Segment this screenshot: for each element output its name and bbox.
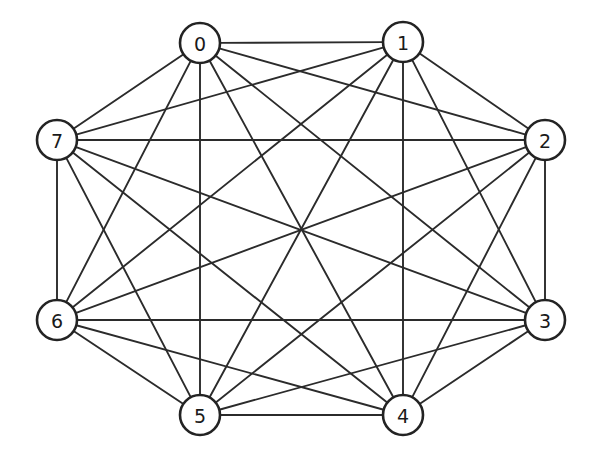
graph-edge-0-2	[218, 48, 526, 135]
graph-edge-2-5	[215, 152, 530, 403]
graph-edge-3-5	[218, 325, 526, 410]
graph-node-6[interactable]: 6	[37, 300, 77, 340]
graph-node-0[interactable]: 0	[180, 23, 220, 63]
graph-node-1[interactable]: 1	[383, 22, 423, 62]
graph-node-2[interactable]: 2	[525, 120, 565, 160]
graph-node-3[interactable]: 3	[525, 300, 565, 340]
graph-edge-3-4	[419, 331, 529, 405]
node-label-1: 1	[397, 32, 409, 54]
node-label-6: 6	[51, 310, 63, 332]
graph-edge-0-1	[219, 42, 384, 43]
edge-layer	[57, 42, 545, 415]
graph-edge-0-3	[215, 55, 530, 308]
node-label-3: 3	[539, 310, 551, 332]
node-label-4: 4	[397, 405, 409, 427]
graph-edge-1-6	[72, 54, 388, 308]
node-label-5: 5	[194, 405, 206, 427]
graph-edge-4-7	[72, 152, 388, 403]
graph-node-4[interactable]: 4	[383, 395, 423, 435]
graph-edge-1-7	[75, 47, 384, 135]
node-label-2: 2	[539, 130, 551, 152]
graph-node-7[interactable]: 7	[37, 120, 77, 160]
graph-edge-1-2	[419, 53, 530, 129]
graph-canvas: 01234567	[0, 0, 592, 463]
graph-edge-5-6	[73, 331, 184, 405]
node-label-7: 7	[51, 130, 63, 152]
graph-node-5[interactable]: 5	[180, 395, 220, 435]
graph-edge-1-3	[412, 59, 537, 303]
graph-edge-0-6	[66, 60, 192, 303]
graph-figure: 01234567	[0, 0, 592, 463]
graph-edge-4-6	[75, 325, 384, 410]
graph-edge-0-7	[73, 54, 185, 130]
node-label-0: 0	[194, 33, 206, 55]
